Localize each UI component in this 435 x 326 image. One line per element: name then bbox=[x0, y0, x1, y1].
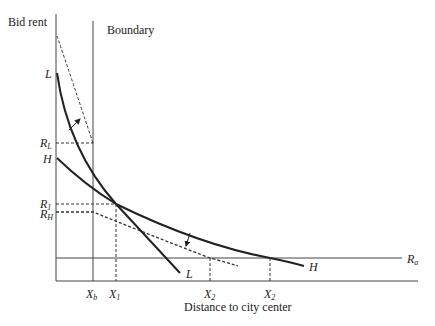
h-right-label: H bbox=[309, 261, 318, 273]
ra-label: Ra bbox=[407, 253, 418, 267]
l-curve bbox=[57, 73, 180, 273]
bid-rent-diagram: Bid rent Boundary L RL H R1 RH L H Ra Xb… bbox=[0, 0, 435, 326]
l-shifted-curve bbox=[57, 36, 93, 143]
xb-label: Xb bbox=[86, 288, 97, 302]
h-left-label: H bbox=[43, 153, 52, 165]
x1-label: X1 bbox=[109, 288, 120, 302]
boundary-label: Boundary bbox=[107, 24, 154, 36]
diagram-canvas bbox=[0, 0, 435, 326]
l-top-label: L bbox=[45, 68, 52, 80]
x-axis-label: Distance to city center bbox=[184, 301, 292, 313]
shift-up-arrow-icon bbox=[69, 119, 80, 130]
y-axis-label: Bid rent bbox=[8, 16, 47, 28]
rl-label: RL bbox=[40, 137, 52, 151]
l-bottom-label: L bbox=[186, 268, 193, 280]
rh-label: RH bbox=[40, 208, 53, 222]
